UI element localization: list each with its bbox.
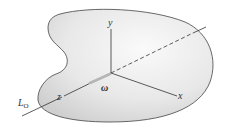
lo-label-main: L — [18, 97, 24, 108]
lo-label: LO — [18, 98, 29, 108]
z-axis-label: z — [57, 92, 61, 102]
y-axis-label: y — [108, 18, 112, 28]
rigid-body-diagram — [0, 0, 231, 128]
x-axis-label: x — [178, 91, 182, 101]
lo-label-subscript: O — [24, 102, 29, 110]
omega-label: ω — [101, 83, 108, 93]
